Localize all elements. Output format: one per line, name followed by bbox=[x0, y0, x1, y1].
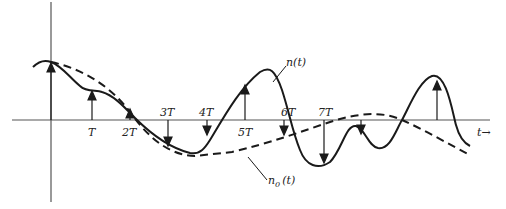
n-curve-label: n(t) bbox=[286, 56, 306, 69]
arrow-head-T bbox=[88, 91, 96, 100]
n0-curve-label: n0(t) bbox=[268, 174, 295, 189]
tick-labels: T 2T 3T 4T 5T 6T 7T bbox=[88, 106, 334, 139]
tick-label-7T: 7T bbox=[318, 106, 334, 119]
x-axis-label: t→ bbox=[477, 126, 491, 139]
tick-label-2T: 2T bbox=[121, 126, 138, 139]
tick-label-4T: 4T bbox=[198, 106, 215, 119]
arrow-head-10T bbox=[433, 81, 441, 90]
arrow-head-7T bbox=[320, 154, 328, 163]
arrow-head-6T bbox=[280, 126, 288, 135]
curve-n-solid bbox=[33, 61, 470, 166]
arrow-head-4T bbox=[203, 126, 211, 135]
n0-label-main: n bbox=[268, 174, 275, 187]
tick-label-5T: 5T bbox=[238, 126, 254, 139]
n0-label-leader bbox=[248, 157, 267, 180]
tick-label-3T: 3T bbox=[160, 106, 176, 119]
n0-label-sub: 0 bbox=[275, 180, 280, 189]
n0-label-arg: (t) bbox=[282, 174, 295, 187]
diagram-canvas: T 2T 3T 4T 5T 6T 7T t→ n(t) n0(t) bbox=[0, 0, 506, 209]
tick-label-T: T bbox=[88, 126, 97, 139]
axes bbox=[12, 2, 490, 202]
tick-label-6T: 6T bbox=[281, 106, 297, 119]
